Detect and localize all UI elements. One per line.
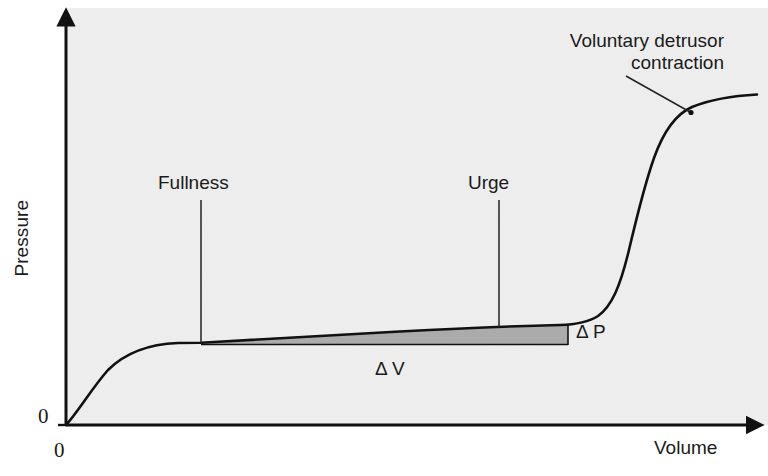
x-axis-label: Volume xyxy=(654,437,717,459)
annotation-voluntary-detrusor-contraction: Voluntary detrusorcontraction xyxy=(474,30,724,75)
x-axis-origin-tick-label: 0 xyxy=(54,438,65,463)
y-axis-label-text: Pressure xyxy=(11,200,33,277)
annotation-fullness: Fullness xyxy=(158,172,229,194)
contraction-leader-endpoint xyxy=(688,110,693,115)
cystometrogram-figure: Pressure Volume 0 0 Fullness Urge Volunt… xyxy=(0,0,768,476)
annotation-delta-p: Δ P xyxy=(576,321,606,343)
annotation-delta-v: Δ V xyxy=(375,358,405,380)
annotation-contraction-line-1: Voluntary detrusor xyxy=(570,30,724,51)
annotation-urge: Urge xyxy=(468,172,509,194)
y-axis-origin-tick-label: 0 xyxy=(38,404,49,429)
annotation-contraction-line-2: contraction xyxy=(631,52,724,73)
